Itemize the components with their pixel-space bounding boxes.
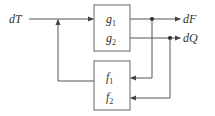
input-label-dT: dT [9, 12, 23, 26]
output-label-dQ: dQ [183, 31, 198, 45]
feed-to-f1 [131, 19, 152, 78]
feedback-arrow [58, 20, 94, 81]
output-label-dF: dF [183, 12, 197, 26]
block-diagram: dT g1 g2 f1 f2 dF dQ [0, 0, 215, 116]
feed-to-f2 [131, 38, 170, 98]
